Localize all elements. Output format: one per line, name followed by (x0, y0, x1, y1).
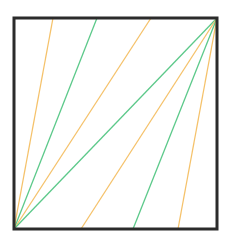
line-from-bottom-left-green (14, 18, 97, 229)
line-from-bottom-left-green (14, 18, 217, 229)
line-from-top-right-orange (81, 18, 217, 229)
line-from-top-right-green (133, 18, 217, 229)
diagonal-lines-group (14, 18, 217, 229)
line-from-top-right-orange (178, 18, 217, 229)
line-from-bottom-left-orange (14, 18, 53, 229)
line-from-bottom-left-orange (14, 18, 151, 229)
fan-lines-diagram (0, 0, 243, 243)
